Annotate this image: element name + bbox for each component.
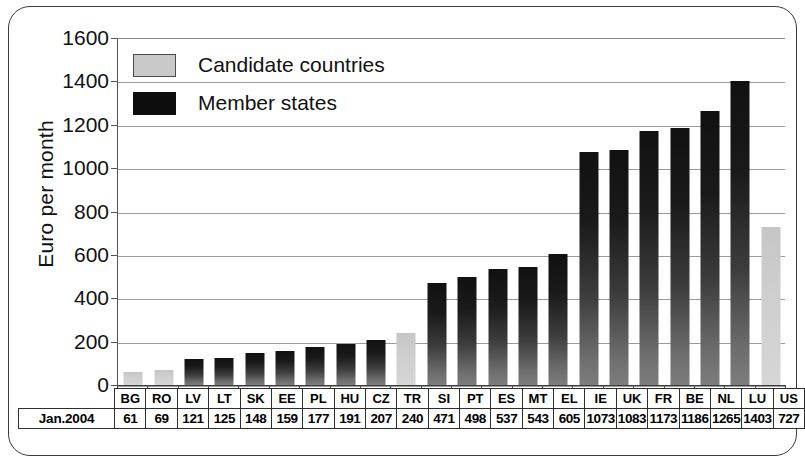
bar-el bbox=[549, 254, 568, 385]
table-cell-value: 207 bbox=[365, 409, 396, 429]
legend-label-member: Member states bbox=[198, 91, 337, 115]
table-cell-code: SI bbox=[428, 389, 459, 409]
table-cell-value: 727 bbox=[773, 409, 804, 429]
y-axis-tick-mark bbox=[111, 81, 117, 82]
bar-es bbox=[488, 269, 507, 385]
y-axis-tick-label: 1200 bbox=[23, 113, 109, 137]
bar-slot bbox=[604, 39, 634, 385]
bar-slot bbox=[573, 39, 603, 385]
y-axis-tick-mark bbox=[111, 342, 117, 343]
table-cell-value: 605 bbox=[554, 409, 585, 429]
table-cell-value: 240 bbox=[397, 409, 428, 429]
table-cell-value: 69 bbox=[146, 409, 177, 429]
y-axis-tick-mark bbox=[111, 125, 117, 126]
legend-swatch-candidate-icon bbox=[133, 54, 176, 77]
bar-tr bbox=[397, 333, 416, 385]
table-cell-code: UK bbox=[616, 389, 647, 409]
table-cell-code: BE bbox=[679, 389, 710, 409]
y-axis-tick-label: 1000 bbox=[23, 156, 109, 180]
y-axis-tick-mark bbox=[111, 212, 117, 213]
bar-ee bbox=[275, 351, 294, 385]
bar-slot bbox=[756, 39, 786, 385]
y-axis-tick-label: 1400 bbox=[23, 69, 109, 93]
bar-slot bbox=[422, 39, 452, 385]
bar-lt bbox=[215, 358, 234, 385]
table-cell-value: 471 bbox=[428, 409, 459, 429]
table-cell-code: ES bbox=[491, 389, 522, 409]
table-row-codes: BGROLVLTSKEEPLHUCZTRSIPTESMTELIEUKFRBENL… bbox=[19, 389, 805, 409]
y-axis-tick-mark bbox=[111, 255, 117, 256]
table-cell-value: 148 bbox=[240, 409, 271, 429]
bar-fr bbox=[640, 131, 659, 385]
y-axis-tick-mark bbox=[111, 38, 117, 39]
table-cell-value: 537 bbox=[491, 409, 522, 429]
table-cell-code: RO bbox=[146, 389, 177, 409]
table-cell-value: 191 bbox=[334, 409, 365, 429]
bar-slot bbox=[665, 39, 695, 385]
table-cell-code: TR bbox=[397, 389, 428, 409]
table-cell-value: 1173 bbox=[648, 409, 679, 429]
bar-uk bbox=[609, 150, 628, 385]
bar-slot bbox=[452, 39, 482, 385]
table-cell-value: 177 bbox=[303, 409, 334, 429]
table-cell-code: EE bbox=[271, 389, 302, 409]
y-axis-tick-label: 200 bbox=[23, 330, 109, 354]
y-axis-tick-label: 1600 bbox=[23, 26, 109, 50]
legend-item-member: Member states bbox=[133, 84, 385, 122]
bar-us bbox=[761, 227, 780, 385]
table-cell-value: 159 bbox=[271, 409, 302, 429]
bar-bg bbox=[124, 372, 143, 385]
table-cell-code: LV bbox=[177, 389, 208, 409]
bar-mt bbox=[518, 267, 537, 385]
table-cell-code: SK bbox=[240, 389, 271, 409]
table-cell-value: 125 bbox=[209, 409, 240, 429]
bar-slot bbox=[634, 39, 664, 385]
bar-slot bbox=[725, 39, 755, 385]
bar-hu bbox=[336, 344, 355, 385]
table-row-label: Jan.2004 bbox=[19, 409, 115, 429]
table-cell-value: 1403 bbox=[742, 409, 773, 429]
bar-nl bbox=[701, 111, 720, 385]
table-cell-code: PT bbox=[460, 389, 491, 409]
bar-ro bbox=[154, 370, 173, 385]
table-cell-value: 498 bbox=[460, 409, 491, 429]
table-cell-code: EL bbox=[554, 389, 585, 409]
table-cell-code: PL bbox=[303, 389, 334, 409]
bar-slot bbox=[513, 39, 543, 385]
legend-swatch-member-icon bbox=[133, 92, 176, 115]
chart-figure: Euro per month 0200400600800100012001400… bbox=[0, 0, 805, 465]
bar-ie bbox=[579, 152, 598, 385]
bar-lv bbox=[184, 359, 203, 385]
bar-be bbox=[670, 128, 689, 385]
table-cell-code: MT bbox=[522, 389, 553, 409]
table-cell-code: HU bbox=[334, 389, 365, 409]
y-axis-tick-mark bbox=[111, 168, 117, 169]
table-cell-code: IE bbox=[585, 389, 616, 409]
table-cell-value: 1186 bbox=[679, 409, 710, 429]
table-cell-value: 61 bbox=[115, 409, 146, 429]
table-cell-value: 1265 bbox=[710, 409, 741, 429]
bar-sk bbox=[245, 353, 264, 385]
bar-pt bbox=[458, 277, 477, 385]
legend-label-candidate: Candidate countries bbox=[198, 53, 385, 77]
y-axis-tick-mark bbox=[111, 298, 117, 299]
bar-si bbox=[427, 283, 446, 385]
bar-cz bbox=[367, 340, 386, 385]
table-cell-value: 543 bbox=[522, 409, 553, 429]
bar-slot bbox=[391, 39, 421, 385]
table-cell-code: US bbox=[773, 389, 804, 409]
table-corner-blank bbox=[19, 389, 115, 409]
bar-slot bbox=[482, 39, 512, 385]
table-cell-code: NL bbox=[710, 389, 741, 409]
bar-slot bbox=[543, 39, 573, 385]
table-cell-code: CZ bbox=[365, 389, 396, 409]
legend-item-candidate: Candidate countries bbox=[133, 46, 385, 84]
table-cell-code: BG bbox=[115, 389, 146, 409]
bar-lu bbox=[731, 81, 750, 385]
table-cell-code: LT bbox=[209, 389, 240, 409]
table-cell-value: 1073 bbox=[585, 409, 616, 429]
table-cell-value: 121 bbox=[177, 409, 208, 429]
y-axis-tick-label: 800 bbox=[23, 200, 109, 224]
table-cell-value: 1083 bbox=[616, 409, 647, 429]
y-axis-tick-label: 600 bbox=[23, 243, 109, 267]
